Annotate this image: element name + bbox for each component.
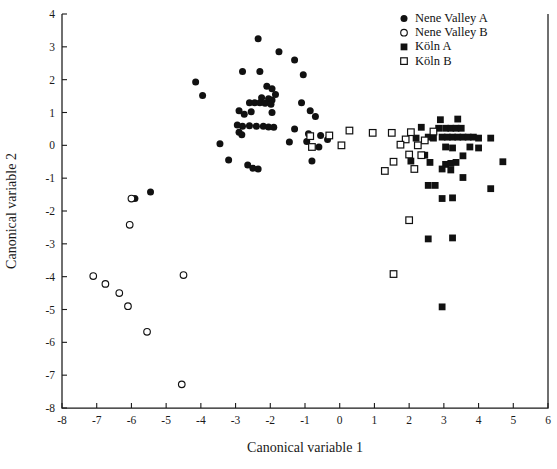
y-axis-tick-label: 2 (49, 74, 55, 86)
y-axis-tick-label: -5 (45, 304, 55, 316)
data-point (144, 329, 151, 336)
data-point (449, 194, 456, 201)
data-point (286, 139, 293, 146)
x-axis-tick-label: -3 (231, 414, 241, 426)
data-point (128, 195, 135, 202)
x-axis-tick-label: 1 (372, 414, 378, 426)
data-point (291, 56, 298, 63)
series-nene-valley-a (131, 35, 331, 202)
series-k-ln-a (407, 116, 506, 311)
x-axis-tick-label: -6 (127, 414, 137, 426)
data-point (425, 182, 432, 189)
legend-marker-icon (401, 15, 408, 22)
data-point (255, 165, 262, 172)
data-point (407, 158, 414, 165)
legend-item: Köln B (401, 54, 452, 68)
x-axis-tick-label: 5 (510, 414, 516, 426)
y-axis-tick-label: -2 (45, 205, 55, 217)
data-point (199, 92, 206, 99)
x-axis-tick-label: 6 (545, 414, 551, 426)
data-point (388, 130, 395, 137)
data-point (192, 78, 199, 85)
y-axis-tick-label: -4 (45, 271, 55, 283)
scatter-plot-figure: -8-7-6-5-4-3-2-10123456-8-7-6-5-4-3-2-10… (0, 0, 557, 469)
data-point (432, 182, 439, 189)
data-point (307, 133, 314, 140)
data-point (312, 113, 319, 120)
data-point (454, 116, 461, 123)
data-point (338, 142, 345, 149)
data-point (437, 116, 444, 123)
data-point (475, 135, 482, 142)
legend-item-label: Nene Valley B (415, 25, 488, 39)
data-point (460, 174, 467, 181)
data-point (291, 125, 298, 132)
y-axis-tick-label: -8 (45, 402, 55, 414)
y-axis-tick-label: 4 (49, 8, 55, 20)
x-axis-tick-label: -4 (196, 414, 206, 426)
data-point (425, 236, 432, 243)
legend: Nene Valley ANene Valley BKöln AKöln B (401, 11, 488, 68)
legend-marker-icon (401, 29, 408, 36)
data-point (499, 158, 506, 165)
data-point (382, 168, 389, 175)
data-point (275, 48, 282, 55)
data-point (487, 185, 494, 192)
x-axis-tick-label: -7 (92, 414, 102, 426)
data-point (421, 137, 428, 144)
series-nene-valley-b (90, 195, 187, 387)
canonical-variate-scatter-plot: -8-7-6-5-4-3-2-10123456-8-7-6-5-4-3-2-10… (0, 0, 557, 469)
legend-item-label: Köln A (415, 39, 451, 53)
legend-item: Nene Valley A (401, 11, 488, 25)
data-point (315, 143, 322, 150)
data-point (126, 221, 133, 228)
x-axis-title: Canonical variable 1 (247, 440, 363, 455)
data-point (326, 132, 333, 139)
data-point (449, 145, 456, 152)
data-point (449, 235, 456, 242)
data-point (248, 108, 255, 115)
data-point (238, 131, 245, 138)
data-point (466, 144, 473, 151)
x-axis-tick-label: 2 (406, 414, 412, 426)
x-axis-tick-label: -5 (161, 414, 171, 426)
data-point (439, 166, 446, 173)
y-axis-tick-label: -1 (45, 172, 55, 184)
data-point (180, 272, 187, 279)
data-point (178, 381, 185, 388)
data-point (90, 273, 97, 280)
data-point (300, 71, 307, 78)
data-point (453, 159, 460, 166)
y-axis-tick-label: 0 (49, 139, 55, 151)
data-point (475, 145, 482, 152)
x-axis-tick-label: -8 (57, 414, 67, 426)
data-point (406, 217, 413, 224)
data-point (262, 100, 269, 107)
x-axis-tick-label: 0 (337, 414, 343, 426)
series-k-ln-b (307, 127, 437, 277)
data-point (246, 122, 253, 129)
x-axis-tick-label: -1 (300, 414, 310, 426)
data-point (270, 124, 277, 131)
data-point (308, 158, 315, 165)
data-point (225, 157, 232, 164)
x-axis-tick-label: 4 (476, 414, 482, 426)
data-point (267, 101, 274, 108)
data-point (369, 130, 376, 137)
data-point (253, 123, 260, 130)
data-point (439, 195, 446, 202)
data-point (408, 129, 415, 136)
data-point (415, 142, 422, 149)
data-point (239, 68, 246, 75)
data-point (298, 99, 305, 106)
y-axis-tick-label: -7 (45, 369, 55, 381)
data-point (439, 303, 446, 310)
legend-marker-icon (401, 44, 408, 51)
data-point (411, 166, 418, 173)
data-point (307, 107, 314, 114)
data-point (216, 140, 223, 147)
x-axis-tick-label: 3 (441, 414, 447, 426)
y-axis-tick-label: -3 (45, 238, 55, 250)
data-point (241, 111, 248, 118)
legend-item: Nene Valley B (401, 25, 488, 39)
